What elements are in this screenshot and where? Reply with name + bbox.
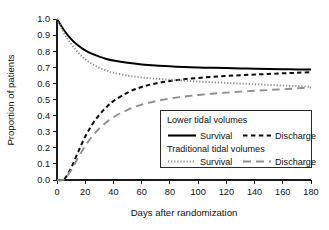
y-tick-label: 0.1 [37,159,50,169]
x-axis-title: Days after randomization [131,207,238,218]
y-tick-label: 1.0 [37,14,50,24]
y-axis-title: Proportion of patients [5,54,16,145]
legend-label-lower-discharge: Discharge [275,131,316,141]
y-axis-ticks [53,19,57,180]
y-tick-label: 0.4 [37,111,50,121]
y-tick-label: 0.8 [37,47,50,57]
chart-plot-area: 0.00.10.20.30.40.50.60.70.80.91.0 020406… [0,0,329,230]
y-tick-label: 0.3 [37,127,50,137]
x-tick-label: 100 [190,187,205,197]
y-tick-label: 0.6 [37,79,50,89]
legend-group1-heading: Lower tidal volumes [167,115,248,125]
legend-label-traditional-discharge: Discharge [275,157,316,167]
x-tick-label: 40 [108,187,118,197]
series-line-2 [57,19,311,87]
x-tick-label: 160 [275,187,290,197]
y-tick-label: 0.0 [37,175,50,185]
legend-label-traditional-survival: Survival [200,157,232,167]
chart-figure: 0.00.10.20.30.40.50.60.70.80.91.0 020406… [0,0,329,230]
y-tick-label: 0.7 [37,63,50,73]
x-tick-label: 120 [219,187,234,197]
y-tick-label: 0.2 [37,143,50,153]
y-tick-label: 0.9 [37,30,50,40]
series-line-0 [57,19,311,70]
x-tick-label: 60 [137,187,147,197]
y-tick-label: 0.5 [37,95,50,105]
x-tick-label: 180 [303,187,318,197]
chart-legend: Lower tidal volumes Survival Discharge T… [161,111,316,168]
y-axis-tick-labels: 0.00.10.20.30.40.50.60.70.80.91.0 [37,14,50,185]
legend-label-lower-survival: Survival [200,131,232,141]
x-axis-ticks [57,180,311,184]
x-axis-tick-labels: 020406080100120140160180 [54,187,318,197]
x-tick-label: 140 [247,187,262,197]
x-tick-label: 0 [54,187,59,197]
x-tick-label: 20 [80,187,90,197]
x-tick-label: 80 [165,187,175,197]
legend-group2-heading: Traditional tidal volumes [167,144,265,154]
